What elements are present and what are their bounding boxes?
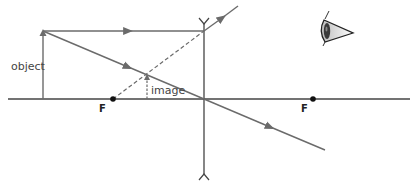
focal-point-right xyxy=(310,96,316,102)
focal-label-left: F xyxy=(99,103,106,114)
image-arrow xyxy=(144,74,150,99)
image-label: image xyxy=(151,84,185,97)
object-label: object xyxy=(11,60,46,73)
eye-icon xyxy=(321,11,353,46)
focal-label-right: F xyxy=(301,103,308,114)
focal-point-left xyxy=(110,96,116,102)
ray-diagram: object image F F xyxy=(0,0,417,189)
